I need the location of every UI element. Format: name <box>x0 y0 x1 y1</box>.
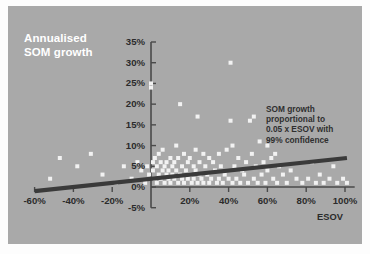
x-tick-label: -20% <box>82 195 142 206</box>
scatter-point <box>217 152 221 156</box>
scatter-point <box>178 102 182 106</box>
scatter-point <box>196 181 200 185</box>
y-tick-label: 10% <box>89 140 145 151</box>
scatter-point <box>263 181 267 185</box>
scatter-point <box>194 148 198 152</box>
scatter-point <box>289 168 293 172</box>
plot-area: -5%0%5%10%15%20%25%30%35%-60%-40%-20%20%… <box>8 6 362 244</box>
scatter-point <box>180 164 184 168</box>
scatter-point <box>252 177 256 181</box>
y-tick-label: 5% <box>89 160 145 171</box>
scatter-point <box>219 164 223 168</box>
scatter-point <box>174 144 178 148</box>
scatter-point <box>244 160 248 164</box>
scatter-point <box>262 160 266 164</box>
scatter-point <box>242 173 246 177</box>
scatter-point <box>230 181 234 185</box>
scatter-point <box>229 119 233 123</box>
chart-panel: Annualised SOM growth SOM growth proport… <box>8 6 362 244</box>
scatter-point <box>271 177 275 181</box>
scatter-point <box>265 168 269 172</box>
scatter-point <box>295 177 299 181</box>
scatter-point <box>89 152 93 156</box>
scatter-point <box>314 181 318 185</box>
chart-figure: Annualised SOM growth SOM growth proport… <box>0 0 370 254</box>
scatter-point <box>335 181 339 185</box>
scatter-point <box>101 173 105 177</box>
scatter-point <box>273 152 277 156</box>
scatter-point <box>201 181 205 185</box>
scatter-point <box>170 164 174 168</box>
scatter-point <box>58 156 62 160</box>
scatter-point <box>258 139 262 143</box>
scatter-point <box>209 177 213 181</box>
axes-group <box>35 42 355 208</box>
scatter-point <box>145 164 149 168</box>
scatter-point <box>248 119 252 123</box>
scatter-point <box>221 181 225 185</box>
scatter-point <box>260 173 264 177</box>
trend-line <box>35 158 347 191</box>
scatter-point <box>149 81 153 85</box>
y-tick-label: 0% <box>89 181 145 192</box>
scatter-point <box>174 168 178 172</box>
scatter-point <box>186 177 190 181</box>
trend-line-path <box>35 158 347 191</box>
scatter-point <box>215 181 219 185</box>
scatter-point <box>188 156 192 160</box>
scatter-point <box>176 181 180 185</box>
scatter-point <box>318 173 322 177</box>
scatter-point <box>161 168 165 172</box>
scatter-point <box>246 181 250 185</box>
scatter-point <box>229 61 233 65</box>
scatter-point <box>225 148 229 152</box>
scatter-point <box>322 181 326 185</box>
scatter-point <box>199 177 203 181</box>
scatter-point <box>281 173 285 177</box>
scatter-point <box>151 168 155 172</box>
scatter-point <box>285 181 289 185</box>
scatter-point <box>211 160 215 164</box>
scatter-point <box>166 168 170 172</box>
scatter-point <box>192 177 196 181</box>
scatter-point <box>217 177 221 181</box>
scatter-point <box>192 164 196 168</box>
scatter-point <box>331 164 335 168</box>
scatter-point <box>227 177 231 181</box>
scatter-point <box>252 115 256 119</box>
scatter-point <box>345 181 349 185</box>
scatter-point <box>147 173 151 177</box>
scatter-point <box>157 152 161 156</box>
scatter-point <box>161 148 165 152</box>
scatter-point <box>48 177 52 181</box>
plot-svg <box>8 6 362 244</box>
scatter-point <box>203 164 207 168</box>
scatter-point <box>182 181 186 185</box>
scatter-point <box>168 181 172 185</box>
y-tick-label: 30% <box>89 57 145 68</box>
scatter-point <box>168 156 172 160</box>
scatter-point <box>196 115 200 119</box>
scatter-point <box>182 152 186 156</box>
scatter-point <box>236 156 240 160</box>
y-tick-label: 25% <box>89 77 145 88</box>
scatter-point <box>327 177 331 181</box>
y-tick-label: 35% <box>89 36 145 47</box>
scatter-point <box>238 181 242 185</box>
scatter-point <box>149 86 153 90</box>
scatter-point <box>176 156 180 160</box>
scatter-point <box>207 156 211 160</box>
scatter-point <box>165 160 169 164</box>
scatter-point <box>201 152 205 156</box>
scatter-point <box>269 156 273 160</box>
scatter-point <box>306 177 310 181</box>
scatter-point <box>184 168 188 172</box>
scatter-point <box>163 181 167 185</box>
scatter-point <box>256 181 260 185</box>
x-axis-title: ESOV <box>317 212 343 222</box>
scatter-point <box>186 160 190 164</box>
y-tick-label: 15% <box>89 119 145 130</box>
scatter-point <box>265 144 269 148</box>
scatter-point <box>151 160 155 164</box>
scatter-point <box>207 181 211 185</box>
